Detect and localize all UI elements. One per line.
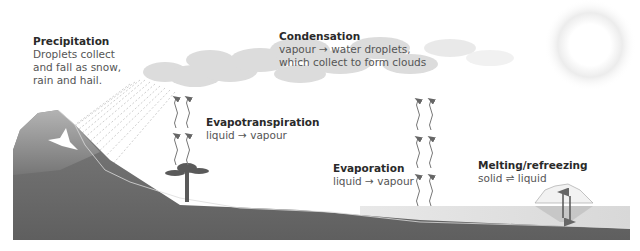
evapotranspiration-label: Evapotranspiration liquid → vapour — [206, 116, 320, 142]
sun-icon — [544, 0, 636, 91]
evapotranspiration-title: Evapotranspiration — [206, 116, 320, 129]
evapotranspiration-body: liquid → vapour — [206, 129, 320, 142]
evaporation-title: Evaporation — [333, 162, 414, 175]
precipitation-body: Droplets collect and fall as snow, rain … — [33, 48, 121, 87]
tree-icon — [165, 163, 209, 202]
precipitation-label: Precipitation Droplets collect and fall … — [33, 35, 121, 87]
melting-label: Melting/refreezing solid ⇌ liquid — [478, 159, 588, 185]
precipitation-title: Precipitation — [33, 35, 121, 48]
vapour-arrow-icon — [417, 100, 433, 206]
vapour-arrow-icon — [175, 98, 190, 165]
condensation-label: Condensation vapour → water droplets, wh… — [279, 30, 426, 69]
melting-body: solid ⇌ liquid — [478, 172, 588, 185]
melting-title: Melting/refreezing — [478, 159, 588, 172]
condensation-body: vapour → water droplets, which collect t… — [279, 43, 426, 69]
condensation-title: Condensation — [279, 30, 426, 43]
evaporation-label: Evaporation liquid → vapour — [333, 162, 414, 188]
evaporation-body: liquid → vapour — [333, 175, 414, 188]
